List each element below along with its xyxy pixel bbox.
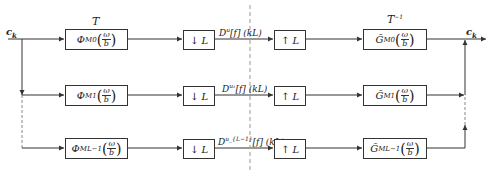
down-arrow-icon: ↓ (190, 35, 198, 46)
analysis-subscript: M0 (85, 36, 97, 44)
up-arrow-icon: ↑ (281, 144, 289, 155)
down-arrow-icon: ↓ (190, 91, 198, 102)
up-arrow-icon: ↑ (281, 91, 289, 102)
analysis-filter-0: ΦM0(ωb) (65, 29, 128, 50)
downsample-block-1: ↓L (183, 86, 215, 106)
coef-label-0: Du[f] (kL) (219, 26, 262, 38)
downsample-block-0: ↓L (183, 30, 215, 50)
synthesis-filter-1: G̃M1(ωb) (363, 85, 427, 106)
upsample-block-2: ↑L (274, 139, 306, 159)
up-arrow-icon: ↑ (281, 35, 289, 46)
upsample-block-0: ↑L (274, 30, 306, 50)
synthesis-filter-2: G̃ML−1(ωb) (363, 138, 427, 159)
input-signal-label: ck (6, 26, 17, 40)
down-arrow-icon: ↓ (190, 144, 198, 155)
downsample-block-2: ↓L (183, 139, 215, 159)
analysis-symbol: Φ (77, 34, 85, 45)
frac-den: b (104, 40, 109, 48)
synthesis-filter-0: G̃M0(ωb) (363, 29, 427, 50)
coef-label-1: Du₁[f] (kL) (222, 82, 267, 94)
analysis-filter-1: ΦM1(ωb) (65, 85, 128, 106)
transform-label: T (92, 15, 99, 28)
upsample-block-1: ↑L (274, 86, 306, 106)
output-signal-label: ck (466, 26, 477, 40)
inverse-transform-label: T−1 (387, 13, 403, 26)
analysis-filter-2: ΦML−1(ωb) (65, 138, 128, 159)
